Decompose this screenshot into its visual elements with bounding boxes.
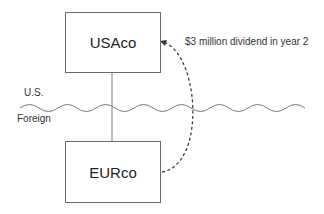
region-foreign-label: Foreign	[17, 113, 51, 124]
arrowhead-icon	[160, 40, 167, 46]
usaco-label: USAco	[90, 34, 137, 51]
eurco-label: EURco	[89, 164, 137, 181]
dividend-label: $3 million dividend in year 2	[185, 36, 308, 47]
region-us-label: U.S.	[24, 87, 43, 98]
border-wave	[20, 105, 305, 112]
ownership-diagram: USAco EURco U.S. Foreign $3 million divi…	[0, 0, 324, 214]
usaco-box: USAco	[65, 12, 161, 73]
eurco-box: EURco	[65, 141, 161, 203]
connectors	[0, 0, 324, 214]
dividend-flow-arrow	[162, 43, 193, 172]
